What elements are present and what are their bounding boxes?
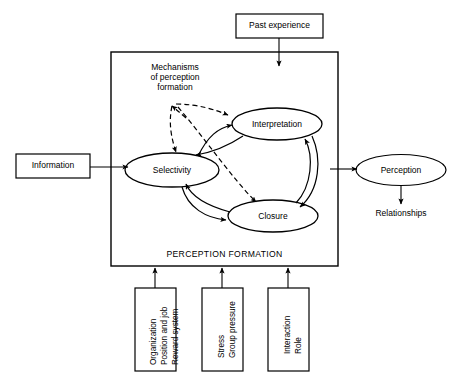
arrow-interpretation-to-closure [300,136,318,207]
interaction-label-line2: Role [294,337,304,354]
mechanisms-label-line2: of perception [132,72,218,83]
frame-caption: PERCEPTION FORMATION [111,249,338,259]
dashed-arrow-mechanisms-to-selectivity [170,106,176,152]
selectivity-label: Selectivity [125,165,219,176]
organization-label-line1: Organization [149,319,159,365]
past-experience-label: Past experience [236,20,323,31]
interpretation-label: Interpretation [232,119,322,130]
organization-label-line3: Reward system [171,309,181,365]
arrow-closure-to-interpretation [296,139,310,203]
closure-label: Closure [228,211,318,222]
arrow-closure-to-selectivity [186,184,230,212]
information-label: Information [16,160,90,171]
perception-label: Perception [356,165,446,176]
stress-label-line2: Group pressure [228,301,238,358]
arrow-selectivity-to-closure [182,187,226,220]
organization-label-line2: Position and job [160,307,170,365]
interaction-label-line1: Interaction [283,316,293,354]
mechanisms-label-line3: formation [132,82,218,93]
mechanisms-label-line1: Mechanisms [132,62,218,73]
arrow-interpretation-to-selectivity [196,136,243,155]
arrow-selectivity-to-interpretation [198,125,232,156]
relationships-label: Relationships [356,208,446,219]
perception-formation-diagram: Past experience Information Mechanisms o… [0,0,455,380]
stress-label-line1: Stress [217,335,227,358]
